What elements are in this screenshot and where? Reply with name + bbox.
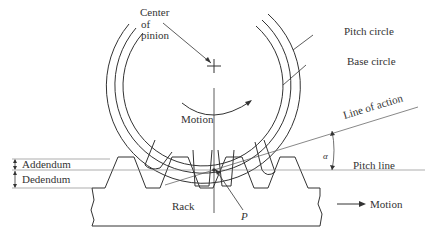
label-pressure-angle: α bbox=[323, 152, 328, 161]
label-pinion-motion: Motion bbox=[181, 114, 213, 125]
label-center-line3: pinion bbox=[141, 30, 169, 41]
label-addendum: Addendum bbox=[22, 159, 71, 170]
label-pitch-point: P bbox=[241, 211, 248, 222]
label-rack-motion: Motion bbox=[370, 199, 402, 210]
label-pitch-line: Pitch line bbox=[353, 160, 395, 171]
pitch-circle bbox=[115, 20, 291, 173]
outer-circle bbox=[106, 14, 300, 183]
label-pitch-circle: Pitch circle bbox=[344, 26, 394, 37]
base-circle bbox=[123, 26, 283, 166]
label-dedendum: Dedendum bbox=[22, 174, 70, 185]
label-center-line1: Center bbox=[140, 7, 169, 18]
label-base-circle: Base circle bbox=[347, 56, 396, 67]
label-rack: Rack bbox=[172, 201, 195, 212]
